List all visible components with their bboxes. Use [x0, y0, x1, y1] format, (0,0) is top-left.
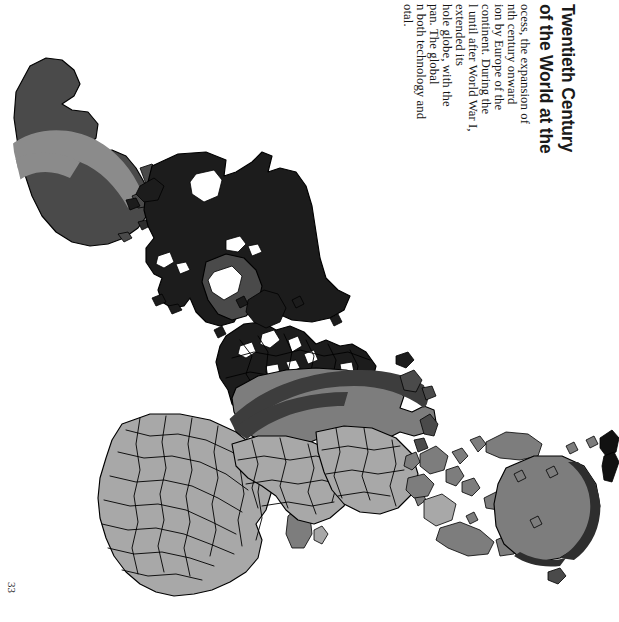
scanned-book-page: of the World at the Twentieth Century oc…	[0, 0, 619, 622]
page-title-text-2: Twentieth Century	[558, 4, 578, 152]
page-title-text-1: of the World at the	[535, 4, 556, 153]
landmass-new-zealand	[600, 430, 619, 482]
world-map-svg	[0, 0, 619, 622]
page-title-line-2: Twentieth Century	[557, 4, 578, 152]
landmass-australia	[494, 456, 600, 584]
landmass-south-america	[2, 58, 150, 246]
world-map	[0, 0, 619, 622]
page-title-line-1: of the World at the	[535, 4, 556, 153]
